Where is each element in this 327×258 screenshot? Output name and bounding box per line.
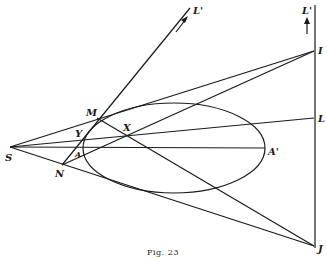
- label-I: I: [317, 45, 323, 56]
- label-M: M: [85, 107, 98, 118]
- label-S: S: [5, 152, 12, 163]
- figure-caption: Fig. 23: [147, 248, 179, 257]
- label-A-prime: A': [267, 146, 279, 157]
- label-L: L: [317, 113, 325, 124]
- label-J: J: [316, 243, 324, 254]
- label-Y: Y: [75, 128, 83, 139]
- label-L-prime-oblique: L': [192, 5, 203, 16]
- conic-diagram: S M N Y A X A' I L J L' L' Fig. 23: [0, 0, 327, 258]
- arrow-up-icon: [304, 17, 310, 34]
- line-S-J: [10, 147, 314, 246]
- line-M-J: [97, 118, 314, 246]
- label-A: A: [74, 149, 81, 159]
- label-L-prime-vertical: L': [301, 5, 312, 16]
- axis-line-SA: [10, 147, 265, 148]
- label-X: X: [122, 122, 132, 133]
- line-N-M-Lprime: [62, 8, 190, 165]
- label-N: N: [54, 168, 65, 179]
